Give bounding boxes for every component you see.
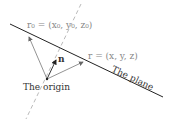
r0-label: r₀ = (x₀, y₀, z₀)	[27, 21, 92, 30]
diagram-graphics	[0, 0, 172, 123]
origin-label: The origin	[23, 83, 70, 92]
plane-diagram: r₀ = (x₀, y₀, z₀) r = (x, y, z) n The or…	[0, 0, 172, 123]
n-vector	[47, 60, 56, 79]
r-label: r = (x, y, z)	[88, 52, 138, 61]
n-label: n	[58, 55, 65, 64]
r0-vector	[29, 37, 47, 79]
origin-point	[46, 78, 48, 80]
